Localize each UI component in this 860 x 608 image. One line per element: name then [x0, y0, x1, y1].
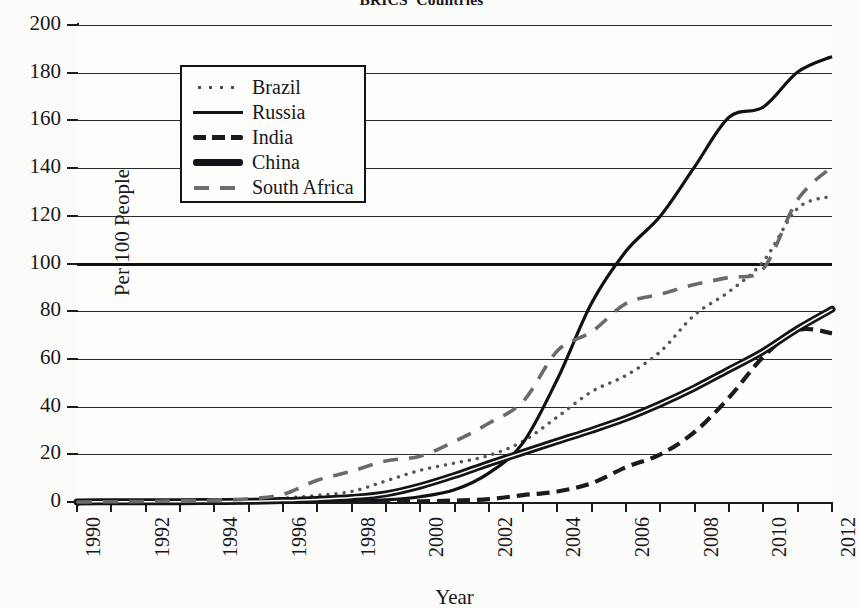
- x-tick: [762, 502, 764, 512]
- x-tick-label: 1994: [219, 517, 242, 557]
- y-tick-label: 100: [30, 251, 62, 273]
- x-tick-label: 1992: [151, 517, 174, 557]
- x-tick-label: 2004: [562, 517, 585, 557]
- x-axis-label: Year: [77, 585, 832, 608]
- y-tick-label: 40: [40, 394, 61, 416]
- legend-item-label: Russia: [252, 101, 305, 123]
- x-tick-label: 2010: [768, 517, 791, 557]
- y-tick-label: 200: [30, 12, 62, 34]
- legend-swatch-icon: [193, 105, 243, 119]
- x-tick-label: 2008: [700, 517, 723, 557]
- chart-title: BRICS' Countries: [0, 0, 843, 9]
- y-tick-label: 160: [30, 107, 62, 129]
- x-tick: [625, 502, 627, 512]
- legend-swatch-icon: [193, 130, 243, 144]
- x-tick-label: 2006: [631, 517, 654, 557]
- y-axis-label: Per 100 People: [110, 169, 135, 296]
- legend-swatch-icon: [193, 80, 243, 94]
- y-tick-label: 80: [40, 298, 61, 320]
- legend-item-label: Brazil: [252, 76, 301, 98]
- x-tick-label: 2000: [425, 517, 448, 557]
- x-tick: [522, 502, 524, 512]
- x-tick: [419, 502, 421, 512]
- x-tick: [694, 502, 696, 512]
- x-tick-label: 2002: [494, 517, 517, 557]
- x-tick: [454, 502, 456, 512]
- x-tick: [556, 502, 558, 512]
- x-tick: [351, 502, 353, 512]
- x-tick: [659, 502, 661, 512]
- x-tick-label: 1998: [357, 517, 380, 557]
- x-tick-label: 1990: [82, 517, 105, 557]
- series-brazil: [77, 196, 832, 502]
- y-tick-label: 120: [30, 203, 62, 225]
- legend-swatch-icon: [193, 180, 243, 194]
- legend-item-china[interactable]: China: [182, 149, 364, 174]
- y-tick-label: 60: [40, 346, 61, 368]
- x-tick-label: 1996: [288, 517, 311, 557]
- y-tick-label: 0: [51, 489, 62, 511]
- legend-item-label: South Africa: [252, 176, 354, 198]
- legend-item-label: India: [252, 126, 293, 148]
- legend-swatch-icon: [193, 155, 243, 169]
- x-tick-label: 2012: [837, 517, 860, 557]
- y-tick-label: 180: [30, 60, 62, 82]
- legend-item-india[interactable]: India: [182, 124, 364, 149]
- legend-item-label: China: [252, 151, 300, 173]
- series-south-africa: [77, 167, 832, 502]
- y-tick-label: 20: [40, 441, 61, 463]
- x-tick: [831, 502, 833, 512]
- x-tick: [591, 502, 593, 512]
- series-line: [77, 167, 832, 502]
- y-tick-label: 140: [30, 155, 62, 177]
- x-tick: [797, 502, 799, 512]
- legend-item-russia[interactable]: Russia: [182, 99, 364, 124]
- chart-legend: BrazilRussiaIndiaChinaSouth Africa: [180, 65, 366, 203]
- plot-area: 020406080100120140160180200 199019921994…: [77, 25, 832, 502]
- x-tick: [728, 502, 730, 512]
- series-line: [77, 196, 832, 502]
- x-tick: [488, 502, 490, 512]
- legend-item-brazil[interactable]: Brazil: [182, 74, 364, 99]
- legend-item-south-africa[interactable]: South Africa: [182, 174, 364, 199]
